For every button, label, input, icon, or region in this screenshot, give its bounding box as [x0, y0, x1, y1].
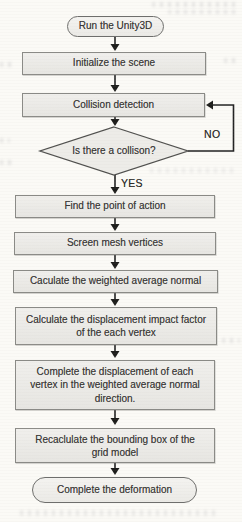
node-calculate-displacement-impact-factor: Calculate the displacement impact factor…	[15, 307, 217, 345]
node-calculate-weighted-average-normal: Caculate the weighted average normal	[13, 270, 218, 293]
edge-label-no: NO	[204, 128, 220, 140]
node-recalculate-bounding-box: Recaclulate the bounding box of the grid…	[15, 428, 215, 463]
node-collision-detection: Collision detection	[22, 93, 205, 117]
node-screen-mesh-vertices: Screen mesh vertices	[14, 232, 216, 255]
node-start-terminator: Run the Unity3D	[67, 16, 164, 37]
node-complete-displacement: Complete the displacement of each vertex…	[15, 360, 215, 410]
edge-label-yes: YES	[121, 177, 143, 189]
node-find-point-of-action: Find the point of action	[15, 195, 215, 218]
node-collision-decision: Is there a collison?	[50, 140, 178, 162]
flowchart-figure: Run the Unity3D Initialize the scene Col…	[0, 0, 242, 522]
node-initialize-scene: Initialize the scene	[22, 52, 206, 75]
node-end-terminator: Complete the deformation	[32, 477, 197, 503]
